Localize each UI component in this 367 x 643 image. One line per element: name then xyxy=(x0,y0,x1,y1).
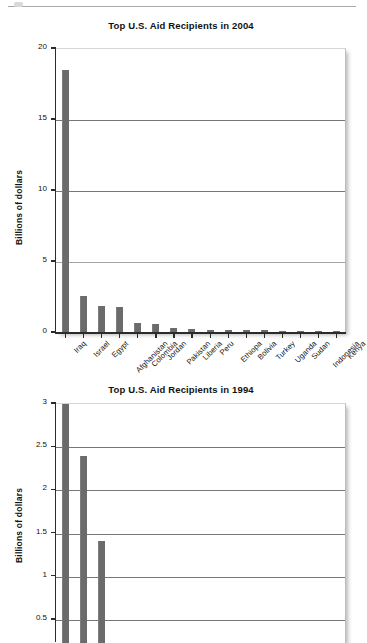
y-tick-10 xyxy=(51,189,56,190)
y-tick-2_5 xyxy=(51,446,56,447)
chart-1994-title: Top U.S. Aid Recipients in 1994 xyxy=(0,384,362,395)
y-tick-3 xyxy=(51,402,56,403)
y-tick-0 xyxy=(51,331,56,332)
x-label-kenya: Kenya xyxy=(345,339,367,361)
x-tick-turkey xyxy=(264,334,265,338)
y-tick-1 xyxy=(51,575,56,576)
y-tick-0_5 xyxy=(51,618,56,619)
chart-2004-title: Top U.S. Aid Recipients in 2004 xyxy=(0,20,362,31)
y-tick-2 xyxy=(51,489,56,490)
y-tick-label-20: 20 xyxy=(20,42,47,51)
x-tick-colombia xyxy=(137,334,138,338)
gridline-2 xyxy=(56,490,345,491)
x-tick-bolivia xyxy=(246,334,247,338)
chart-2004-x-axis xyxy=(55,332,346,334)
x-tick-uganda xyxy=(282,334,283,338)
x-tick-indonesia xyxy=(318,334,319,338)
x-tick-sudan xyxy=(300,334,301,338)
x-tick-peru xyxy=(210,334,211,338)
gridline-1_5 xyxy=(56,534,345,535)
chart-1994-y-axis xyxy=(55,403,56,642)
y-tick-label-1_5: 1.5 xyxy=(20,527,47,536)
y-tick-5 xyxy=(51,260,56,261)
y-tick-label-5: 5 xyxy=(20,255,47,264)
chart-2004-y-axis-label: Billions of dollars xyxy=(14,170,24,245)
x-tick-iraq xyxy=(65,334,66,338)
bar-egypt xyxy=(98,306,105,333)
x-tick-egypt xyxy=(101,334,102,338)
gridline-2_5 xyxy=(56,447,345,448)
x-label-israel: Israel xyxy=(92,339,112,359)
chart-1994-plot-area xyxy=(56,403,346,643)
x-tick-jordan xyxy=(155,334,156,338)
chart-2004: Top U.S. Aid Recipients in 2004 Billions… xyxy=(0,0,362,380)
bar-2 xyxy=(80,456,87,643)
y-tick-label-15: 15 xyxy=(20,113,47,122)
y-tick-label-2: 2 xyxy=(20,483,47,492)
y-tick-15 xyxy=(51,118,56,119)
bar-3 xyxy=(98,541,105,643)
y-tick-label-10: 10 xyxy=(20,184,47,193)
y-tick-label-2_5: 2.5 xyxy=(20,440,47,449)
y-tick-20 xyxy=(51,47,56,48)
bar-israel xyxy=(80,296,87,333)
bar-iraq xyxy=(62,70,69,333)
x-tick-kenya xyxy=(336,334,337,338)
chart-2004-plot-area xyxy=(56,48,346,333)
gridline-10 xyxy=(56,191,345,192)
x-tick-afghanistan xyxy=(119,334,120,338)
x-tick-ethiopa xyxy=(228,334,229,338)
y-tick-label-0_5: 0.5 xyxy=(20,613,47,622)
x-tick-liberia xyxy=(191,334,192,338)
y-tick-1_5 xyxy=(51,532,56,533)
x-tick-pakistan xyxy=(173,334,174,338)
x-label-iraq: Iraq xyxy=(72,339,88,355)
y-tick-label-3: 3 xyxy=(20,397,47,406)
y-tick-label-0: 0 xyxy=(20,326,47,335)
bar-1 xyxy=(62,404,69,643)
y-tick-label-1: 1 xyxy=(20,570,47,579)
chart-1994-y-axis-label: Billions of dollars xyxy=(14,488,24,563)
bar-afghanistan xyxy=(116,307,123,333)
x-tick-israel xyxy=(83,334,84,338)
x-label-egypt: Egypt xyxy=(110,339,130,359)
gridline-15 xyxy=(56,120,345,121)
chart-1994: Top U.S. Aid Recipients in 1994 Billions… xyxy=(0,380,362,642)
gridline-5 xyxy=(56,262,345,263)
